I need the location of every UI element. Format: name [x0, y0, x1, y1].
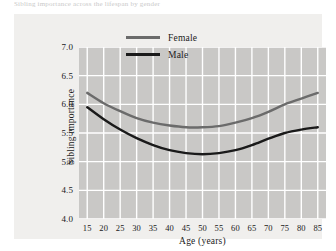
legend-swatch-male [126, 53, 160, 56]
legend-label-male: Male [168, 50, 188, 60]
x-tick-label: 20 [99, 223, 108, 233]
chart-panel: 7.06.56.05.55.04.54.0 152025303540455055… [14, 14, 322, 239]
x-tick-label: 30 [132, 223, 141, 233]
y-axis-label: Sibling importance [66, 88, 76, 164]
x-tick-label: 15 [83, 223, 92, 233]
figure-top-caption: Sibling importance across the lifespan b… [14, 0, 324, 9]
legend-swatch-female [126, 36, 160, 39]
x-tick-label: 85 [313, 223, 322, 233]
x-tick-label: 60 [231, 223, 240, 233]
x-axis-label: Age (years) [79, 236, 326, 246]
legend-item-female: Female [126, 29, 231, 46]
x-tick-label: 45 [182, 223, 191, 233]
x-tick-label: 75 [280, 223, 289, 233]
chart-figure: Sibling importance across the lifespan b… [0, 0, 336, 251]
x-tick-label: 80 [297, 223, 306, 233]
x-tick-label: 25 [116, 223, 125, 233]
x-tick-label: 50 [198, 223, 207, 233]
y-tick-label: 4.5 [61, 185, 73, 195]
legend-label-female: Female [168, 33, 197, 43]
legend-item-male: Male [126, 46, 231, 63]
y-tick-label: 7.0 [61, 42, 73, 52]
plot-svg [79, 47, 326, 219]
x-tick-label: 65 [248, 223, 257, 233]
x-tick-label: 40 [165, 223, 174, 233]
x-tick-label: 35 [149, 223, 158, 233]
y-tick-label: 4.0 [61, 214, 73, 224]
x-tick-label: 70 [264, 223, 273, 233]
chart-legend: Female Male [126, 29, 231, 63]
x-tick-label: 55 [215, 223, 224, 233]
y-tick-label: 6.5 [61, 71, 73, 81]
plot-area: 7.06.56.05.55.04.54.0 152025303540455055… [79, 47, 326, 219]
